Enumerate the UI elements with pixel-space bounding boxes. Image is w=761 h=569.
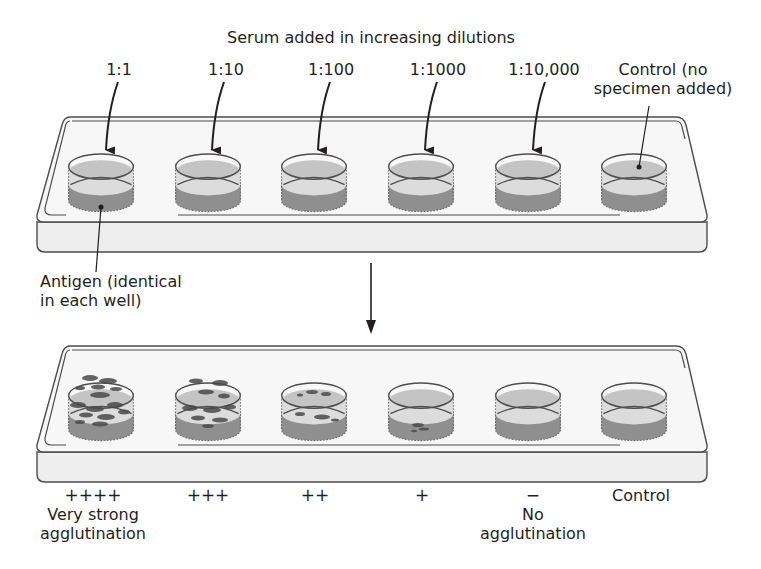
result-symbol: −	[480, 486, 586, 505]
control-top-label: Control (no specimen added)	[594, 60, 733, 98]
result-desc-line1: No	[480, 505, 586, 524]
result-symbol: +	[415, 486, 429, 505]
result-well-1: ++++ Very strong agglutination	[40, 486, 146, 543]
result-symbol: Control	[612, 486, 670, 505]
antigen-label: Antigen (identical in each well)	[40, 272, 182, 310]
dilution-label-4: 1:1000	[410, 60, 466, 79]
antigen-line2: in each well)	[40, 291, 182, 310]
result-desc-line2: agglutination	[480, 524, 586, 543]
result-well-5: − No agglutination	[480, 486, 586, 543]
dilution-label-5: 1:10,000	[508, 60, 580, 79]
antigen-line1: Antigen (identical	[40, 272, 182, 291]
result-well-4: +	[415, 486, 429, 505]
dilution-label-1: 1:1	[106, 60, 132, 79]
control-top-line1: Control (no	[594, 60, 733, 79]
dilution-label-2: 1:10	[208, 60, 244, 79]
dilution-label-3: 1:100	[308, 60, 354, 79]
result-desc-line1: Very strong	[40, 505, 146, 524]
result-symbol: ++++	[40, 486, 146, 505]
diagram-title: Serum added in increasing dilutions	[227, 28, 515, 47]
result-symbol: +++	[187, 486, 230, 505]
result-well-6: Control	[612, 486, 670, 505]
result-desc-line2: agglutination	[40, 524, 146, 543]
result-symbol: ++	[301, 486, 330, 505]
process-arrow-down	[366, 263, 376, 334]
result-well-3: ++	[301, 486, 330, 505]
result-well-2: +++	[187, 486, 230, 505]
control-top-line2: specimen added)	[594, 79, 733, 98]
